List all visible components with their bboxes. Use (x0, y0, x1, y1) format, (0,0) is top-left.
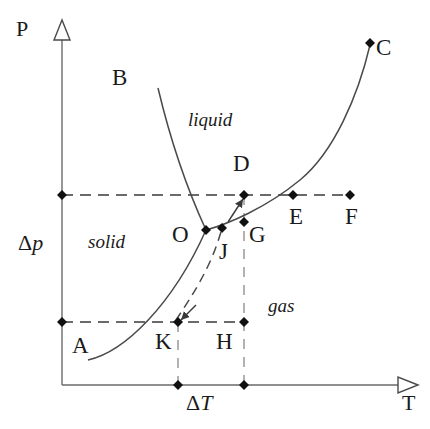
marker-point-d (239, 190, 249, 200)
marker-point-k (173, 317, 183, 327)
point-label-b: B (112, 66, 127, 89)
delta-t-symbol: Δ (186, 390, 200, 415)
point-label-h: H (216, 330, 233, 353)
axis-label-temperature: T (402, 392, 415, 414)
marker-tick-right (239, 380, 249, 390)
arrow-to-k (181, 305, 196, 320)
delta-p-symbol: Δ (18, 230, 32, 255)
point-label-d: D (233, 152, 250, 175)
phase-label-solid: solid (88, 232, 125, 251)
marker-point-h (239, 317, 249, 327)
marker-point-c (365, 38, 375, 48)
phase-label-gas: gas (268, 296, 294, 315)
annotation-delta-p: Δp (18, 232, 43, 254)
marker-point-f (345, 190, 355, 200)
delta-p-variable: p (32, 230, 43, 255)
marker-point-j (217, 223, 227, 233)
point-label-g: G (249, 223, 266, 246)
point-label-j: J (219, 240, 228, 263)
point-label-a: A (72, 334, 89, 357)
phase-diagram-canvas (0, 0, 430, 429)
point-label-o: O (172, 223, 189, 246)
point-label-f: F (345, 205, 358, 228)
marker-point-g (239, 217, 249, 227)
point-label-c: C (376, 36, 391, 59)
delta-t-variable: T (200, 390, 212, 415)
point-label-k: K (155, 330, 172, 353)
vaporization-curve (206, 45, 370, 230)
point-label-e: E (289, 205, 303, 228)
y-axis-arrowhead (54, 20, 70, 40)
marker-point-a (57, 317, 67, 327)
annotation-delta-t: ΔT (186, 392, 212, 414)
phase-label-liquid: liquid (188, 110, 232, 129)
marker-point-e (288, 190, 298, 200)
marker-upper-isobar-origin (57, 190, 67, 200)
marker-point-o (201, 225, 211, 235)
phase-diagram-figure: P T solid liquid gas A B C D E F G H J K… (0, 0, 430, 429)
axis-label-pressure: P (16, 18, 28, 40)
marker-tick-left (173, 380, 183, 390)
